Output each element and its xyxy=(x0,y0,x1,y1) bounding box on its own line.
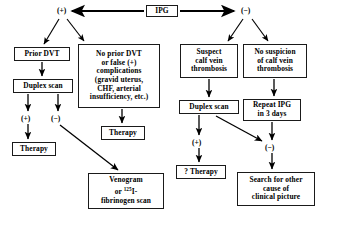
node-therapy-left[interactable]: Therapy xyxy=(12,142,56,156)
node-label: Therapy xyxy=(104,129,142,138)
node-search-other-cause[interactable]: Search for othercause ofclinical picture xyxy=(237,172,315,206)
sign-positive-right: (+) xyxy=(192,138,201,147)
node-label: ? Therapy xyxy=(179,168,223,177)
flowchart-canvas: IPG Prior DVT No prior DVTor false (+)co… xyxy=(0,0,339,225)
edge-minus-to-suspect xyxy=(228,19,243,41)
node-duplex-scan-right[interactable]: Duplex scan xyxy=(179,100,239,114)
node-duplex-scan-left[interactable]: Duplex scan xyxy=(13,79,73,93)
node-no-suspicion-calf-vein-thrombosis[interactable]: No suspicionof calf veinthrombosis xyxy=(243,44,307,78)
node-therapy-middle[interactable]: Therapy xyxy=(101,126,145,140)
sign-negative-top: (−) xyxy=(241,6,250,15)
node-question-therapy[interactable]: ? Therapy xyxy=(176,165,226,179)
node-label: No prior DVTor false (+)complications(gr… xyxy=(81,50,157,102)
sign-negative-right: (−) xyxy=(265,143,274,152)
node-ipg[interactable]: IPG xyxy=(146,5,178,17)
node-venogram-fibrinogen-scan[interactable]: Venogramor 125I-fibrinogen scan xyxy=(88,173,164,209)
sign-positive-top: (+) xyxy=(57,6,66,15)
node-label: Prior DVT xyxy=(17,50,67,59)
node-label: Duplex scan xyxy=(182,103,236,112)
node-label: IPG xyxy=(149,7,175,16)
sign-positive-left: (+) xyxy=(21,114,30,123)
node-prior-dvt[interactable]: Prior DVT xyxy=(14,47,70,61)
sign-negative-left: (−) xyxy=(51,114,60,123)
node-repeat-ipg[interactable]: Repeat IPGin 3 days xyxy=(243,99,301,121)
node-complications[interactable]: No prior DVTor false (+)complications(gr… xyxy=(78,44,160,108)
node-label: Search for othercause ofclinical picture xyxy=(240,176,312,202)
node-label: Suspectcalf veinthrombosis xyxy=(183,48,235,74)
node-label: Venogramor 125I-fibrinogen scan xyxy=(91,176,161,205)
node-label: No suspicionof calf veinthrombosis xyxy=(246,48,304,74)
node-suspect-calf-vein-thrombosis[interactable]: Suspectcalf veinthrombosis xyxy=(180,44,238,78)
edge-plus-to-complications xyxy=(67,19,84,41)
node-label: Duplex scan xyxy=(16,82,70,91)
edge-plus-to-prior-dvt xyxy=(44,19,59,44)
node-label: Therapy xyxy=(15,145,53,154)
edge-minus-to-no-suspicion xyxy=(252,19,268,41)
node-label: Repeat IPGin 3 days xyxy=(246,101,298,118)
